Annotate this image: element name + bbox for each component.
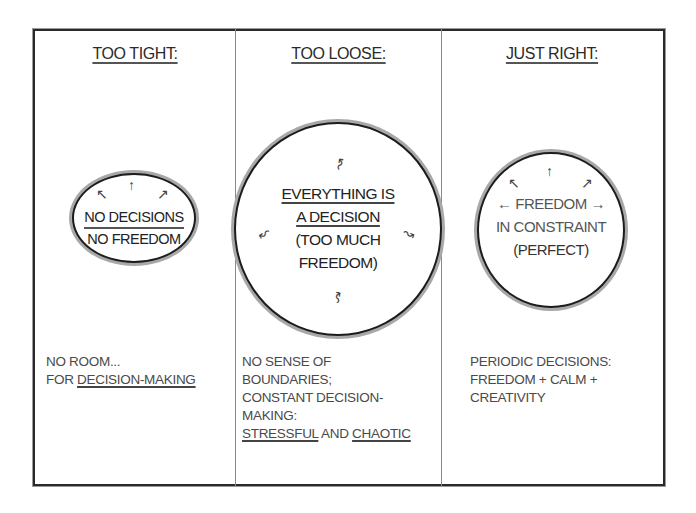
title-too-loose-text: TOO LOOSE: [291,45,385,62]
arrow-right-icon: → [590,195,605,212]
description-line: NO ROOM... [46,353,196,371]
freedom-label: FREEDOM [515,195,587,212]
description-line: PERIODIC DECISIONS: [470,353,611,371]
circle-too-tight-text: NO DECISIONS NO FREEDOM [72,207,196,249]
arrow-up-icon: ↑ [546,164,553,178]
too-much-label: (TOO MUCH [234,228,442,251]
description-just-right: PERIODIC DECISIONS: FREEDOM + CALM + CRE… [470,353,611,407]
description-line: CREATIVITY [470,389,611,407]
no-decisions-label: NO DECISIONS [84,208,184,229]
no-freedom-label: NO FREEDOM [72,229,196,249]
freedom-row: ← FREEDOM → [477,192,625,215]
squiggle-arrow-up-icon: ↝ [331,157,347,171]
circle-just-right-text: ← FREEDOM → IN CONSTRAINT (PERFECT) [477,192,625,261]
everything-is-label: EVERYTHING IS [282,185,395,202]
arrow-left-icon: ← [497,195,512,212]
title-just-right-text: JUST RIGHT: [506,45,598,62]
description-line: MAKING: [242,407,411,425]
title-too-loose: TOO LOOSE: [236,45,441,63]
in-constraint-label: IN CONSTRAINT [477,215,625,238]
description-text: AND [318,426,352,441]
description-line: STRESSFUL AND CHAOTIC [242,425,411,443]
arrow-up-left-icon: ↖ [508,176,520,190]
title-too-tight: TOO TIGHT: [35,45,235,63]
description-line: FOR DECISION-MAKING [46,371,196,389]
arrow-up-left-icon: ↖ [96,187,108,201]
title-just-right: JUST RIGHT: [442,45,662,63]
squiggle-arrow-down-icon: ↜ [331,291,347,305]
arrow-up-right-icon: ↗ [581,176,593,190]
decision-making-emphasis: DECISION-MAKING [77,372,196,387]
stressful-emphasis: STRESSFUL [242,426,318,441]
description-line: FREEDOM + CALM + [470,371,611,389]
description-text: FOR [46,372,77,387]
chaotic-emphasis: CHAOTIC [352,426,411,441]
description-too-loose: NO SENSE OF BOUNDARIES; CONSTANT DECISIO… [242,353,411,443]
description-too-tight: NO ROOM... FOR DECISION-MAKING [46,353,196,389]
a-decision-label: A DECISION [296,208,380,225]
circle-too-loose-text: EVERYTHING IS A DECISION (TOO MUCH FREED… [234,182,442,274]
arrow-up-icon: ↑ [128,178,135,192]
arrow-up-right-icon: ↗ [157,187,169,201]
freedom-label: FREEDOM) [234,251,442,274]
description-line: NO SENSE OF [242,353,411,371]
description-line: BOUNDARIES; [242,371,411,389]
title-too-tight-text: TOO TIGHT: [92,45,177,62]
perfect-label: (PERFECT) [477,238,625,261]
description-line: CONSTANT DECISION- [242,389,411,407]
